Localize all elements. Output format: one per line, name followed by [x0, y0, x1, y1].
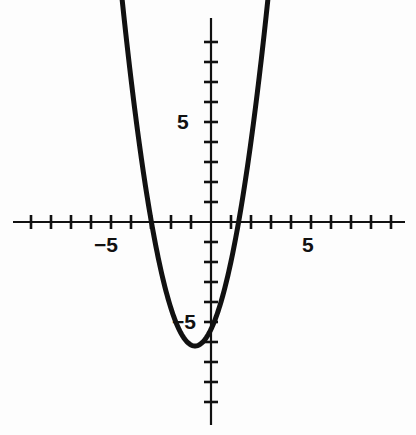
coordinate-plane-svg: [0, 0, 416, 435]
y-axis-label-negative-5: −5: [172, 310, 196, 334]
x-axis-label-negative-5: −5: [94, 233, 118, 257]
parabola-graph-figure: −5 5 5 −5: [0, 0, 416, 435]
parabola-curve: [116, 0, 273, 346]
y-axis-label-positive-5: 5: [177, 110, 189, 134]
x-axis-label-positive-5: 5: [302, 233, 314, 257]
